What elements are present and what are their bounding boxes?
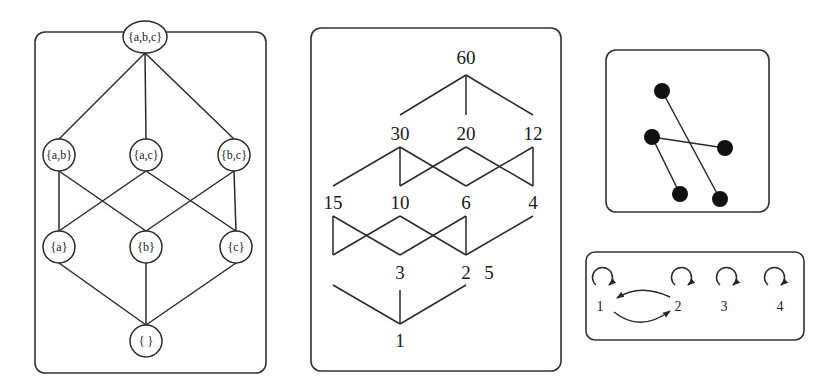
lattice-node-ac: {a,c} [130,139,162,171]
digraph-node-3: 3 [721,299,728,314]
node-label: {b} [137,240,155,254]
divisor-node-6: 6 [461,192,471,213]
lattice-node-ab: {a,b} [43,139,75,171]
node-label: {b,c} [221,148,247,162]
graph-vertex [644,129,660,145]
digraph-node-2: 2 [675,299,682,314]
lattice-node-empty: { } [130,325,162,357]
node-label: {a,b} [46,148,72,162]
node-label: {a,c} [133,148,158,162]
figure-canvas: {a,b,c} {a,b} {a,c} {b,c} {a} {b} {c} { [0,0,838,391]
digraph-node-4: 4 [777,299,784,314]
lattice-node-a: {a} [43,231,75,263]
lattice-node-c: {c} [220,231,252,263]
relation-digraph-panel: 1 2 3 4 [586,252,804,340]
divisor-node-3: 3 [395,262,405,283]
lattice-node-abc: {a,b,c} [123,21,167,53]
node-label: {a} [51,240,68,254]
panel-frame [606,50,769,212]
divisor-node-2: 2 [461,262,471,283]
graph-vertex [712,191,728,207]
divisor-node-20: 20 [457,123,476,144]
graph-vertex [654,83,670,99]
divisor-node-1: 1 [395,330,405,351]
graph-vertex [672,186,688,202]
divisor-node-60: 60 [457,47,476,68]
lattice-node-bc: {b,c} [218,139,250,171]
divisor-node-10: 10 [391,192,410,213]
divisor-node-5: 5 [484,262,494,283]
divisor-node-12: 12 [524,123,543,144]
graph-vertex [717,140,733,156]
divisor-node-4: 4 [528,192,538,213]
powerset-lattice-panel: {a,b,c} {a,b} {a,c} {b,c} {a} {b} {c} { [35,21,266,373]
node-label: {c} [228,240,245,254]
node-label: {a,b,c} [128,30,162,44]
node-label: { } [139,334,154,348]
lattice-node-b: {b} [130,231,162,263]
divisor-lattice-panel: 60 30 20 12 15 10 6 4 3 2 5 1 [311,28,561,371]
divisor-node-15: 15 [324,192,343,213]
divisor-node-30: 30 [391,123,410,144]
matching-graph-panel [606,50,769,212]
panel-frame [586,252,804,340]
digraph-node-1: 1 [597,299,604,314]
panel-frame [311,28,561,371]
